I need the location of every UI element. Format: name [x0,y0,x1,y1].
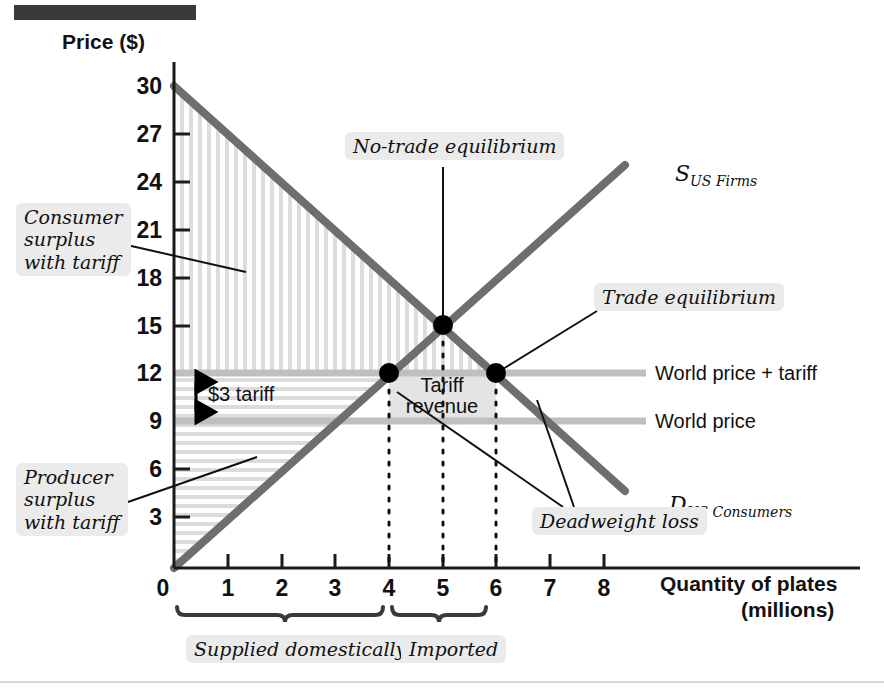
consumer-surplus-callout: Consumersurpluswith tariff [16,203,131,276]
brace-label-supplied-domestically: Supplied domestically [186,635,414,663]
y-tick-24: 24 [108,169,162,196]
supply-curve-label-main: S [675,161,690,186]
producer-surplus-callout: Producersurpluswith tariff [16,463,128,536]
tariff-revenue-label: Tariffrevenue [392,375,492,417]
x-tick-0: 0 [146,575,180,602]
x-tick-7: 7 [533,575,567,602]
x-tick-3: 3 [318,575,352,602]
world-price-plus-tariff-label: World price + tariff [655,362,817,385]
brace-supplied-domestically [177,607,383,622]
y-tick-30: 30 [108,73,162,100]
y-axis-title: Price ($) [62,30,145,54]
brace-imported [392,607,486,622]
x-axis-title-line2: (millions) [741,598,834,622]
x-tick-4: 4 [372,575,406,602]
supply-curve-label-sub: US Firms [690,173,757,189]
x-axis-ticks [228,554,604,568]
world-price-label: World price [655,410,756,433]
no-trade-equilibrium-callout: No-trade equilibrium [345,132,564,160]
y-tick-15: 15 [108,313,162,340]
brace-label-imported: Imported [401,635,506,663]
x-tick-6: 6 [479,575,513,602]
x-tick-2: 2 [265,575,299,602]
x-axis-title-line1: Quantity of plates [660,572,837,596]
trade-equilibrium-callout: Trade equilibrium [594,283,784,311]
tariff-diagram-figure: Price ($) 30 27 24 21 18 15 12 9 6 3 0 1… [0,0,884,688]
y-tick-9: 9 [108,408,162,435]
supply-curve-label: SUS Firms [647,136,757,214]
x-tick-1: 1 [211,575,245,602]
tariff-arrow-label: $3 tariff [208,383,274,406]
x-tick-8: 8 [587,575,621,602]
y-tick-27: 27 [108,121,162,148]
x-tick-5: 5 [426,575,460,602]
y-tick-12: 12 [108,360,162,387]
deadweight-loss-callout: Deadweight loss [532,507,707,535]
